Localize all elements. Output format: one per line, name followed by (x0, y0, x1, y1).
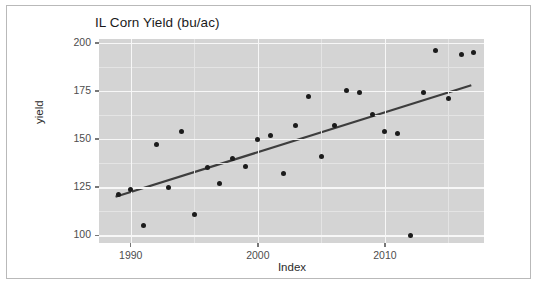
y-tick-label: 175 (59, 84, 91, 96)
x-tick-label: 2000 (246, 249, 269, 261)
data-point (268, 133, 273, 138)
x-tick-label: 2010 (373, 249, 396, 261)
data-point (306, 94, 311, 99)
data-point (446, 96, 451, 101)
y-tick-mark (95, 235, 99, 236)
data-point (344, 88, 349, 93)
data-point (192, 212, 197, 217)
data-point (421, 90, 426, 95)
y-tick-mark (95, 42, 99, 43)
gridline-major-horizontal (99, 235, 484, 236)
gridline-minor-vertical (448, 39, 449, 243)
gridline-minor-vertical (321, 39, 322, 243)
data-point (154, 142, 159, 147)
data-point (281, 171, 286, 176)
page-title: IL Corn Yield (bu/ac) (95, 15, 220, 30)
data-point (382, 129, 387, 134)
data-point (230, 156, 235, 161)
gridline-minor-horizontal (99, 115, 484, 116)
data-point (166, 185, 171, 190)
y-tick-mark (95, 186, 99, 187)
data-point (395, 131, 400, 136)
x-tick-mark (257, 243, 258, 247)
chart-card: IL Corn Yield (bu/ac) 100125150175200 19… (6, 5, 531, 279)
data-point (116, 192, 121, 197)
x-axis-title: Index (278, 261, 306, 273)
gridline-major-horizontal (99, 91, 484, 92)
y-tick-label: 100 (59, 228, 91, 240)
data-point (128, 187, 133, 192)
data-point (332, 123, 337, 128)
data-point (141, 223, 146, 228)
y-tick-label: 150 (59, 132, 91, 144)
x-tick-mark (130, 243, 131, 247)
gridline-major-horizontal (99, 139, 484, 140)
gridline-major-vertical (385, 39, 386, 243)
plot-panel (99, 39, 484, 243)
data-point (433, 48, 438, 53)
data-point (217, 181, 222, 186)
gridline-minor-horizontal (99, 211, 484, 212)
gridline-minor-horizontal (99, 163, 484, 164)
y-tick-label: 125 (59, 180, 91, 192)
data-point (459, 52, 464, 57)
data-point (408, 233, 413, 238)
data-point (357, 90, 362, 95)
screenshot-root: IL Corn Yield (bu/ac) 100125150175200 19… (0, 0, 537, 285)
gridline-major-vertical (131, 39, 132, 243)
y-tick-label: 200 (59, 36, 91, 48)
gridline-minor-horizontal (99, 67, 484, 68)
gridline-major-horizontal (99, 43, 484, 44)
y-axis-title: yield (33, 100, 45, 124)
data-point (179, 129, 184, 134)
data-point (471, 50, 476, 55)
y-tick-mark (95, 138, 99, 139)
data-point (370, 112, 375, 117)
data-point (319, 154, 324, 159)
data-point (255, 137, 260, 142)
trendline (99, 39, 484, 243)
y-tick-mark (95, 90, 99, 91)
data-point (243, 164, 248, 169)
data-point (293, 123, 298, 128)
gridline-major-horizontal (99, 187, 484, 188)
x-tick-mark (384, 243, 385, 247)
x-tick-label: 1990 (119, 249, 142, 261)
data-point (205, 165, 210, 170)
